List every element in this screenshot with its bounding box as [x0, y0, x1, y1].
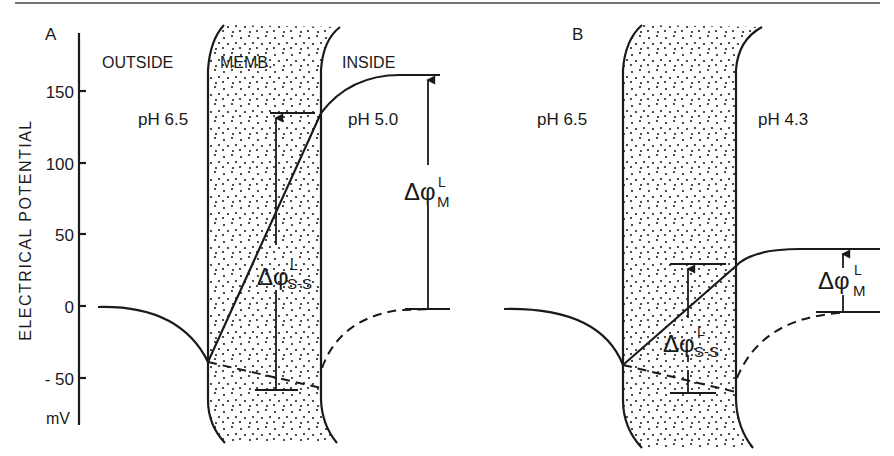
- membrane-potential-diagram: A 150 100 50 0 - 50 mV ELECTRICAL POTENT…: [0, 0, 894, 456]
- membrane-a: [208, 25, 340, 443]
- y-axis-unit: mV: [46, 410, 70, 427]
- svg-text:L: L: [438, 174, 446, 190]
- panel-b-label: B: [572, 25, 583, 44]
- reference-curve-b: [737, 312, 845, 378]
- membrane-b: [623, 25, 762, 448]
- delta-m-annotation-a: Δφ L M: [404, 80, 450, 309]
- ph-inside-b: pH 4.3: [758, 110, 808, 129]
- y-axis: 150 100 50 0 - 50 mV ELECTRICAL POTENTIA…: [17, 33, 86, 427]
- y-tick-100: 100: [46, 155, 74, 174]
- y-tick-50: 50: [55, 226, 74, 245]
- region-membrane-label: MEMB.: [220, 54, 272, 71]
- svg-text:L: L: [697, 323, 705, 339]
- delta-m-annotation-b: Δφ L M: [816, 254, 880, 312]
- y-tick-150: 150: [46, 83, 74, 102]
- ph-outside-b: pH 6.5: [537, 110, 587, 129]
- delta-m-label-b: Δφ: [818, 267, 850, 294]
- region-inside-label: INSIDE: [342, 54, 395, 71]
- svg-text:M: M: [853, 282, 866, 299]
- y-axis-title: ELECTRICAL POTENTIAL: [17, 119, 34, 340]
- ph-outside-a: pH 6.5: [138, 110, 188, 129]
- panel-a: A 150 100 50 0 - 50 mV ELECTRICAL POTENT…: [17, 25, 450, 443]
- svg-text:L: L: [854, 262, 862, 278]
- ph-inside-a: pH 5.0: [348, 110, 398, 129]
- reference-curve-a: [322, 309, 430, 368]
- region-outside-label: OUTSIDE: [102, 54, 173, 71]
- delta-ss-label-b: Δφ: [663, 330, 695, 357]
- svg-text:L: L: [290, 257, 298, 273]
- svg-text:S-S: S-S: [287, 275, 312, 292]
- y-tick-minus-50: - 50: [45, 370, 74, 389]
- panel-b: B pH 6.5 pH 4.3 Δφ L S-S: [504, 25, 880, 448]
- panel-a-label: A: [45, 25, 57, 44]
- svg-text:M: M: [437, 193, 450, 210]
- delta-ss-label-a: Δφ: [257, 263, 289, 290]
- delta-m-label-a: Δφ: [404, 178, 436, 205]
- y-tick-0: 0: [65, 298, 74, 317]
- svg-text:S-S: S-S: [694, 343, 719, 360]
